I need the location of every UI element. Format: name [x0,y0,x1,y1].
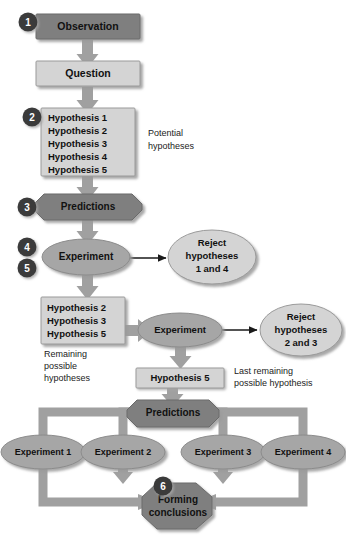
badge-4-number: 4 [24,242,30,253]
reject-2-3-line2: hypotheses [275,324,328,335]
node-experiment-second[interactable]: Experiment [138,313,222,347]
note-potential-line1: Potential [148,128,183,138]
node-forming-conclusions[interactable]: Forming conclusions [142,483,212,529]
node-experiment-first[interactable]: Experiment [42,239,130,275]
note-remaining-line3: hypotheses [44,373,91,383]
node-experiment-4[interactable]: Experiment 4 [261,435,345,469]
experiment-4-label: Experiment 4 [275,447,332,457]
hypothesis-3-label: Hypothesis 3 [48,138,107,149]
observation-label: Observation [57,20,118,32]
note-remaining-line1: Remaining [44,349,87,359]
question-label: Question [65,67,111,79]
predictions-bottom-label: Predictions [146,407,201,418]
scientific-method-flowchart: Observation Question Hypothesis 1 Hypoth… [0,0,346,536]
badge-3-number: 3 [24,202,30,213]
note-remaining-hypotheses: Remaining possible hypotheses [44,349,91,383]
badge-2: 2 [23,108,42,127]
remaining-h2-label: Hypothesis 2 [47,302,106,313]
remaining-h3-label: Hypothesis 3 [47,315,106,326]
arrow-experiment2-hypothesis5 [170,345,192,369]
experiment-2-label: Experiment 2 [95,447,152,457]
experiment-1-label: Experiment 1 [15,447,72,457]
experiment-3-label: Experiment 3 [195,447,252,457]
node-reject-2-and-3[interactable]: Reject hypotheses 2 and 3 [260,304,342,356]
node-question[interactable]: Question [36,61,140,86]
reject-2-3-line3: 2 and 3 [285,337,318,348]
badge-5-number: 5 [24,263,30,274]
note-last-line1: Last remaining [234,366,293,376]
forming-conclusions-line2: conclusions [149,507,208,518]
hypothesis-1-label: Hypothesis 1 [48,112,108,123]
node-predictions-bottom[interactable]: Predictions [127,400,219,427]
node-predictions-top[interactable]: Predictions [34,194,142,220]
badge-3: 3 [18,198,37,217]
node-experiment-2[interactable]: Experiment 2 [81,435,165,469]
note-last-line2: possible hypothesis [234,378,313,388]
experiment-first-label: Experiment [59,251,114,262]
node-observation[interactable]: Observation [36,14,140,39]
reject-1-4-line2: hypotheses [186,250,239,261]
note-last-hypothesis: Last remaining possible hypothesis [234,366,313,388]
hypothesis-5-label: Hypothesis 5 [48,164,108,175]
predictions-top-label: Predictions [61,201,116,212]
diagram-canvas: Observation Question Hypothesis 1 Hypoth… [0,0,346,536]
node-hypothesis-5[interactable]: Hypothesis 5 [136,368,224,388]
reject-2-3-line1: Reject [287,311,316,322]
arrow-experiment-remaining [77,272,99,300]
node-experiment-1[interactable]: Experiment 1 [1,435,85,469]
spine-arrows [77,40,192,407]
node-experiment-3[interactable]: Experiment 3 [181,435,265,469]
badge-5: 5 [18,259,37,278]
hypothesis-4-label: Hypothesis 4 [48,151,108,162]
badge-6: 6 [154,477,173,496]
badge-4: 4 [18,238,37,257]
hypothesis-2-label: Hypothesis 2 [48,125,107,136]
hypothesis-5-box-label: Hypothesis 5 [150,372,210,383]
reject-1-4-line3: 1 and 4 [196,263,229,274]
badge-6-number: 6 [160,481,166,492]
remaining-h5-label: Hypothesis 5 [47,328,107,339]
experiment-second-label: Experiment [154,324,207,335]
note-potential-hypotheses: Potential hypotheses [148,128,195,151]
badge-2-number: 2 [29,112,35,123]
note-potential-line2: hypotheses [148,141,195,151]
node-potential-hypotheses[interactable]: Hypothesis 1 Hypothesis 2 Hypothesis 3 H… [41,108,135,176]
badge-1: 1 [19,13,38,32]
badge-1-number: 1 [25,17,31,28]
node-remaining-hypotheses[interactable]: Hypothesis 2 Hypothesis 3 Hypothesis 5 [41,297,125,344]
note-remaining-line2: possible [44,361,77,371]
node-reject-1-and-4[interactable]: Reject hypotheses 1 and 4 [168,230,256,284]
reject-1-4-line1: Reject [198,237,227,248]
